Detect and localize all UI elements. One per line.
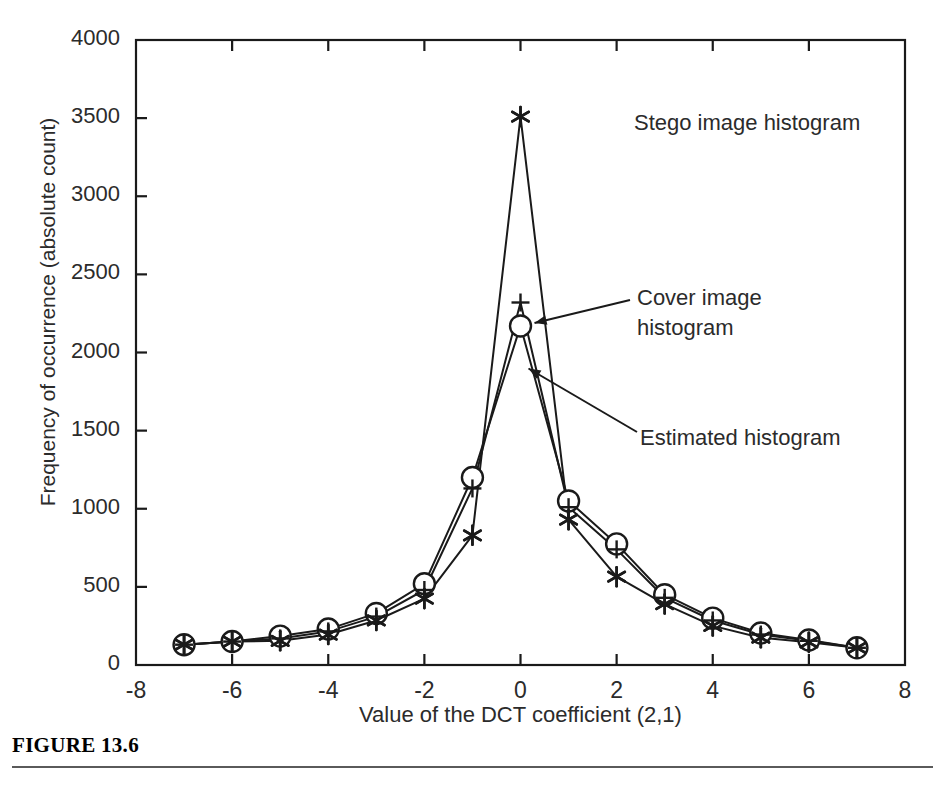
x-tick-label: -4 (288, 677, 368, 704)
annotation-estimated-histogram: Estimated histogram (640, 423, 841, 453)
annotation-stego-histogram: Stego image histogram (634, 108, 860, 138)
y-tick-label: 4000 (0, 25, 120, 51)
x-axis-title: Value of the DCT coefficient (2,1) (136, 702, 905, 728)
y-tick-label: 500 (0, 572, 120, 598)
y-tick-label: 2500 (0, 259, 120, 285)
x-tick-label: 6 (769, 677, 849, 704)
histogram-chart: 05001000150020002500300035004000 -8-6-4-… (0, 0, 945, 690)
y-axis-title: Frequency of occurrence (absolute count) (36, 102, 60, 522)
y-tick-label: 2000 (0, 338, 120, 364)
plot-canvas (0, 0, 945, 690)
x-tick-label: -8 (96, 677, 176, 704)
series-markers (174, 107, 868, 658)
x-tick-label: -2 (384, 677, 464, 704)
x-tick-label: 8 (865, 677, 945, 704)
y-tick-label: 1500 (0, 416, 120, 442)
y-tick-label: 3000 (0, 181, 120, 207)
x-tick-label: 2 (577, 677, 657, 704)
y-tick-label: 3500 (0, 103, 120, 129)
figure-caption-label: FIGURE 13.6 (12, 733, 139, 758)
y-tick-label: 0 (0, 650, 120, 676)
y-tick-label: 1000 (0, 494, 120, 520)
figure-13-6: 05001000150020002500300035004000 -8-6-4-… (0, 0, 945, 792)
annotation-cover-histogram: Cover image histogram (637, 283, 762, 343)
caption-divider (12, 766, 933, 768)
x-tick-label: 4 (673, 677, 753, 704)
series-lines (184, 117, 857, 648)
x-tick-label: -6 (192, 677, 272, 704)
x-tick-label: 0 (481, 677, 561, 704)
